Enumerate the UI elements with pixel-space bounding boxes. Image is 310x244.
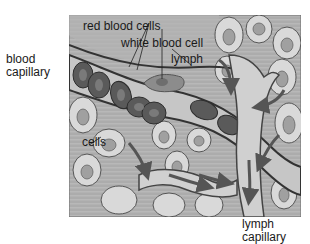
label-white-blood-cell: white blood cell [121,37,203,50]
label-red-blood-cells: red blood cells [83,20,160,33]
label-lymph-capillary-line2: capillary [242,231,286,244]
label-lymph: lymph [171,53,203,66]
label-cells: cells [82,136,106,149]
label-blood-capillary-line2: capillary [6,66,50,79]
